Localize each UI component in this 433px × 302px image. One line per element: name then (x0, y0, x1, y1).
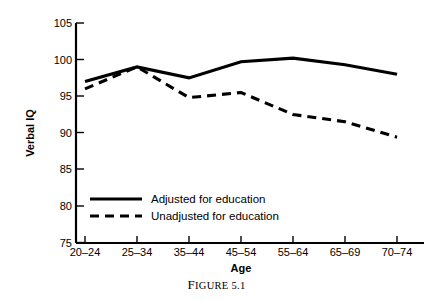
legend-label-unadjusted: Unadjusted for education (151, 210, 279, 222)
x-tick-label-0: 20–24 (70, 246, 101, 258)
x-axis-title: Age (231, 262, 252, 274)
verbal-iq-line-chart: 105 100 95 90 85 80 75 20–24 25–34 35–44… (0, 0, 433, 302)
x-axis-tick-labels: 20–24 25–34 35–44 45–54 55–64 65–69 70–7… (70, 246, 413, 258)
y-tick-label-100: 100 (54, 54, 72, 66)
x-tick-label-5: 65–69 (330, 246, 361, 258)
y-axis-tick-labels: 105 100 95 90 85 80 75 (54, 17, 72, 249)
y-tick-label-95: 95 (60, 90, 72, 102)
figure-container: 105 100 95 90 85 80 75 20–24 25–34 35–44… (0, 0, 433, 302)
chart-legend: Adjusted for education Unadjusted for ed… (90, 193, 279, 222)
x-tick-label-3: 45–54 (226, 246, 257, 258)
y-tick-label-80: 80 (60, 200, 72, 212)
y-axis-title: Verbal IQ (24, 109, 36, 157)
y-tick-label-105: 105 (54, 17, 72, 29)
x-tick-label-1: 25–34 (122, 246, 153, 258)
y-axis-ticks (76, 23, 84, 243)
legend-label-adjusted: Adjusted for education (151, 193, 265, 205)
y-tick-label-85: 85 (60, 163, 72, 175)
series-line-unadjusted (85, 67, 397, 137)
figure-caption: FIGURE 5.1 (0, 277, 433, 293)
chart-series-group (85, 58, 397, 137)
x-tick-label-2: 35–44 (174, 246, 205, 258)
figure-caption-text: FIGURE 5.1 (187, 278, 245, 292)
x-tick-label-4: 55–64 (278, 246, 309, 258)
y-tick-label-90: 90 (60, 127, 72, 139)
x-tick-label-6: 70–74 (382, 246, 413, 258)
